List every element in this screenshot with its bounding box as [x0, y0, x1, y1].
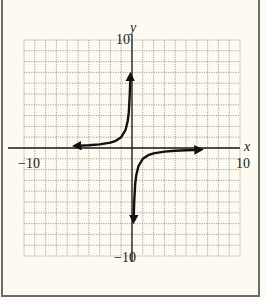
- x-max-tick-label: 10: [236, 156, 250, 171]
- x-min-tick-label: −10: [18, 156, 40, 171]
- y-max-tick-label: 10: [116, 32, 130, 47]
- left-branch: [76, 76, 131, 146]
- y-min-tick-label: −10: [114, 250, 136, 265]
- x-axis-label: x: [243, 139, 251, 154]
- coordinate-plane: x y −10 10 10 −10: [0, 0, 265, 300]
- axes: [8, 34, 240, 262]
- right-branch: [134, 150, 200, 221]
